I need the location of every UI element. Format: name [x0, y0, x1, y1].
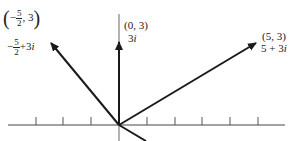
- vector-left-arrow: [51, 43, 119, 125]
- up-coord-label: (0, 3): [124, 20, 148, 31]
- right-complex-label: 5 + 3i: [261, 43, 287, 54]
- left-coord-label: (−52, 3): [3, 8, 40, 28]
- left-complex-label: −52+3i: [7, 38, 35, 57]
- up-complex-label: 3i: [128, 33, 137, 44]
- right-coord-label: (5, 3): [262, 31, 286, 42]
- axis-ticks: [36, 117, 258, 125]
- vector-right-arrow: [119, 43, 256, 125]
- extension-line: [119, 125, 146, 141]
